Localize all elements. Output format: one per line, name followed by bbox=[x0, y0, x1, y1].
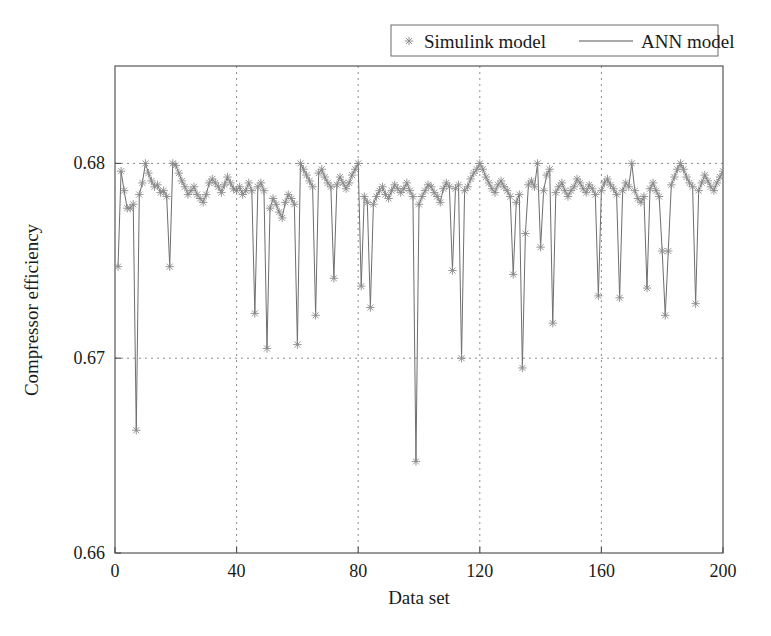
data-point-marker bbox=[257, 179, 265, 187]
data-point-marker bbox=[260, 186, 268, 194]
y-tick-label: 0.67 bbox=[74, 348, 106, 368]
data-point-marker bbox=[454, 181, 462, 189]
y-axis-title: Compressor efficiency bbox=[21, 223, 42, 396]
data-point-marker bbox=[625, 183, 633, 191]
x-tick-label: 40 bbox=[228, 561, 246, 581]
x-tick-label: 160 bbox=[588, 561, 615, 581]
data-point-marker bbox=[327, 183, 335, 191]
x-tick-label: 80 bbox=[349, 561, 367, 581]
data-point-marker bbox=[643, 284, 651, 292]
data-point-marker bbox=[363, 198, 371, 206]
data-point-marker bbox=[570, 183, 578, 191]
data-point-marker bbox=[345, 179, 353, 187]
compressor-efficiency-chart: 04080120160200 0.660.670.68 Data set Com… bbox=[0, 0, 771, 636]
data-point-marker bbox=[679, 165, 687, 173]
data-point-marker bbox=[318, 165, 326, 173]
data-point-marker bbox=[491, 188, 499, 196]
data-point-marker bbox=[518, 364, 526, 372]
data-point-marker bbox=[521, 229, 529, 237]
x-tick-label: 200 bbox=[710, 561, 737, 581]
data-point-marker bbox=[618, 186, 626, 194]
data-point-marker bbox=[235, 183, 243, 191]
data-point-marker bbox=[640, 192, 648, 200]
data-point-marker bbox=[582, 188, 590, 196]
data-point-marker bbox=[515, 190, 523, 198]
data-point-marker bbox=[272, 200, 280, 208]
data-point-marker bbox=[597, 186, 605, 194]
data-point-marker bbox=[281, 198, 289, 206]
data-point-marker bbox=[655, 192, 663, 200]
data-point-marker bbox=[181, 183, 189, 191]
data-point-marker bbox=[311, 311, 319, 319]
data-point-marker bbox=[670, 173, 678, 181]
y-tick-label: 0.68 bbox=[74, 153, 106, 173]
data-point-marker bbox=[141, 159, 149, 167]
data-point-marker bbox=[120, 186, 128, 194]
data-point-marker bbox=[536, 243, 544, 251]
data-point-marker bbox=[509, 270, 517, 278]
data-point-marker bbox=[245, 179, 253, 187]
data-point-marker bbox=[710, 186, 718, 194]
data-point-marker bbox=[664, 247, 672, 255]
data-point-marker bbox=[445, 183, 453, 191]
legend-label-ann: ANN model bbox=[641, 31, 734, 52]
data-point-marker bbox=[612, 190, 620, 198]
data-point-marker bbox=[153, 181, 161, 189]
data-point-marker bbox=[308, 183, 316, 191]
data-point-marker bbox=[506, 192, 514, 200]
chart-figure: 04080120160200 0.660.670.68 Data set Com… bbox=[0, 0, 771, 636]
legend-star-icon bbox=[405, 37, 413, 45]
data-point-marker bbox=[172, 161, 180, 169]
data-point-marker bbox=[384, 194, 392, 202]
data-point-marker bbox=[412, 457, 420, 465]
data-point-marker bbox=[175, 169, 183, 177]
data-point-marker bbox=[661, 311, 669, 319]
data-point-marker bbox=[217, 188, 225, 196]
data-point-marker bbox=[615, 294, 623, 302]
data-point-marker bbox=[369, 200, 377, 208]
figure-background bbox=[0, 0, 771, 636]
data-point-marker bbox=[248, 186, 256, 194]
data-point-marker bbox=[546, 165, 554, 173]
data-point-marker bbox=[162, 192, 170, 200]
x-tick-label: 0 bbox=[111, 561, 120, 581]
data-point-marker bbox=[357, 282, 365, 290]
data-point-marker bbox=[479, 165, 487, 173]
y-tick-label: 0.66 bbox=[74, 543, 106, 563]
data-point-marker bbox=[539, 186, 547, 194]
data-point-marker bbox=[251, 309, 259, 317]
data-point-marker bbox=[667, 181, 675, 189]
data-point-marker bbox=[409, 192, 417, 200]
data-point-marker bbox=[166, 262, 174, 270]
data-point-marker bbox=[415, 200, 423, 208]
data-point-marker bbox=[263, 344, 271, 352]
data-point-marker bbox=[549, 319, 557, 327]
data-point-marker bbox=[512, 198, 520, 206]
data-point-marker bbox=[688, 183, 696, 191]
data-point-marker bbox=[129, 200, 137, 208]
data-point-marker bbox=[114, 262, 122, 270]
data-point-marker bbox=[691, 299, 699, 307]
data-point-marker bbox=[220, 181, 228, 189]
data-point-marker bbox=[631, 186, 639, 194]
x-tick-label: 120 bbox=[466, 561, 493, 581]
data-point-marker bbox=[202, 190, 210, 198]
data-point-marker bbox=[436, 198, 444, 206]
data-point-marker bbox=[354, 159, 362, 167]
data-point-marker bbox=[135, 190, 143, 198]
data-point-marker bbox=[330, 274, 338, 282]
data-point-marker bbox=[144, 169, 152, 177]
data-point-marker bbox=[138, 179, 146, 187]
data-point-marker bbox=[199, 198, 207, 206]
data-point-marker bbox=[190, 183, 198, 191]
data-point-marker bbox=[117, 167, 125, 175]
data-point-marker bbox=[628, 159, 636, 167]
data-point-marker bbox=[333, 181, 341, 189]
data-point-marker bbox=[694, 186, 702, 194]
legend-label-simulink: Simulink model bbox=[424, 31, 546, 52]
data-point-marker bbox=[457, 354, 465, 362]
data-point-marker bbox=[290, 200, 298, 208]
chart-legend: Simulink model ANN model bbox=[391, 25, 734, 56]
data-point-marker bbox=[266, 204, 274, 212]
data-point-marker bbox=[293, 340, 301, 348]
